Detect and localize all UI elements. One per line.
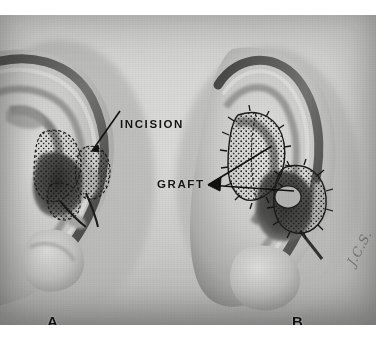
panel-label-b: B. <box>292 314 308 325</box>
graft-label: GRAFT <box>157 179 205 191</box>
film-grain-overlay <box>0 15 376 325</box>
photograph: INCISION GRAFT A. B. J.C.S. <box>0 15 376 325</box>
panel-label-a: A. <box>47 314 63 325</box>
incision-label: INCISION <box>120 119 184 131</box>
figure-plate: INCISION GRAFT A. B. J.C.S. <box>0 0 388 340</box>
